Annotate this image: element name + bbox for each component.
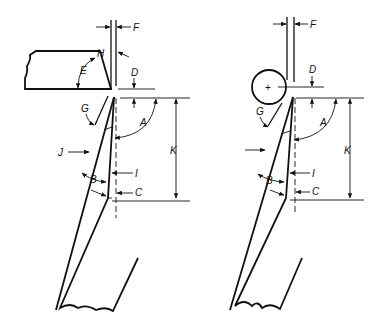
label-i: I bbox=[135, 168, 138, 179]
center-mark: + bbox=[265, 82, 271, 93]
label-k: K bbox=[170, 145, 178, 156]
label-f: F bbox=[310, 19, 317, 30]
label-c: C bbox=[135, 187, 143, 198]
label-c: C bbox=[312, 186, 320, 197]
label-f: F bbox=[133, 22, 140, 33]
label-d: D bbox=[309, 64, 316, 75]
label-b: B bbox=[266, 175, 273, 186]
label-i: I bbox=[312, 168, 315, 179]
label-a: A bbox=[319, 117, 327, 128]
right-figure: + F D G A K I B bbox=[230, 17, 364, 310]
label-h: H bbox=[97, 48, 105, 59]
label-g: G bbox=[256, 106, 264, 117]
label-g: G bbox=[81, 103, 89, 114]
left-figure: F H E D G A K J I bbox=[25, 20, 190, 311]
tool-body bbox=[60, 97, 138, 311]
label-e: E bbox=[80, 65, 87, 76]
label-j: J bbox=[57, 147, 64, 158]
tool-body bbox=[235, 97, 302, 309]
label-d: D bbox=[131, 67, 138, 78]
label-b: B bbox=[90, 174, 97, 185]
label-a: A bbox=[139, 117, 147, 128]
tool-geometry-diagram: F H E D G A K J I bbox=[0, 0, 377, 327]
label-k: K bbox=[344, 145, 352, 156]
